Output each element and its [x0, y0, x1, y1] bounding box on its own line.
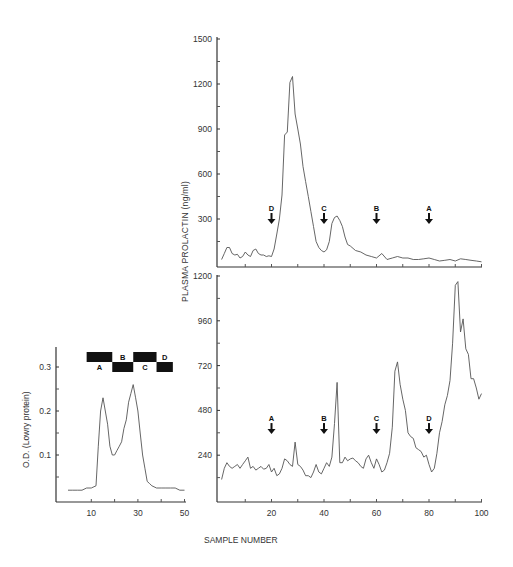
svg-text:50: 50	[180, 508, 190, 518]
chart-bottom: 240480720960120020406080100ABCD	[193, 271, 489, 518]
svg-text:10: 10	[87, 508, 97, 518]
svg-text:900: 900	[198, 124, 212, 134]
svg-text:1200: 1200	[193, 79, 212, 89]
figure-canvas: 30060090012001500DCBA2404807209601200204…	[0, 0, 513, 567]
y-axis-label-prolactin: PLASMA PROLACTIN (ng/ml)	[180, 181, 190, 302]
svg-text:D: D	[162, 353, 168, 362]
y-axis-label-od: O.D. (Lowry protein)	[21, 391, 31, 468]
chart-top: 30060090012001500DCBA	[193, 34, 482, 267]
svg-text:C: C	[321, 204, 327, 213]
svg-text:D: D	[426, 414, 432, 423]
svg-text:40: 40	[319, 508, 329, 518]
svg-text:B: B	[120, 353, 126, 362]
svg-text:0.3: 0.3	[39, 362, 51, 372]
svg-text:C: C	[142, 363, 148, 372]
svg-text:100: 100	[474, 508, 488, 518]
svg-text:0.2: 0.2	[39, 406, 51, 416]
svg-text:960: 960	[198, 316, 212, 326]
svg-text:1500: 1500	[193, 34, 212, 44]
x-axis-label-sample-number: SAMPLE NUMBER	[204, 535, 278, 545]
svg-text:B: B	[321, 414, 327, 423]
svg-text:0.1: 0.1	[39, 450, 51, 460]
svg-text:300: 300	[198, 214, 212, 224]
svg-text:A: A	[97, 363, 103, 372]
svg-text:D: D	[269, 204, 275, 213]
svg-text:C: C	[374, 414, 380, 423]
svg-text:A: A	[269, 414, 275, 423]
svg-text:240: 240	[198, 450, 212, 460]
svg-text:20: 20	[267, 508, 277, 518]
svg-text:480: 480	[198, 405, 212, 415]
svg-text:B: B	[374, 204, 380, 213]
svg-text:720: 720	[198, 361, 212, 371]
svg-text:80: 80	[424, 508, 434, 518]
chart-left: 0.10.20.3103050ABCD	[39, 347, 189, 518]
svg-text:600: 600	[198, 169, 212, 179]
svg-text:1200: 1200	[193, 271, 212, 281]
svg-text:30: 30	[133, 508, 143, 518]
svg-text:60: 60	[372, 508, 382, 518]
svg-text:A: A	[426, 204, 432, 213]
